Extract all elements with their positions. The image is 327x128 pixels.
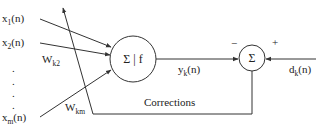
input-label-1: x1(n) xyxy=(2,12,24,27)
input-label-2: x2(n) xyxy=(2,36,24,51)
output-label: yk(n) xyxy=(178,63,200,78)
input-arrow-1 xyxy=(40,19,111,47)
ellipsis-dot: . xyxy=(12,99,15,111)
weight-label-k2: Wk2 xyxy=(42,53,60,68)
summing-junction-label: Σ xyxy=(249,51,256,65)
corrections-label: Corrections xyxy=(144,96,195,108)
desired-label: dk(n) xyxy=(289,63,311,78)
ellipsis-dot: . xyxy=(12,62,15,74)
weight-adjust-arrow xyxy=(63,8,93,114)
plus-sign: + xyxy=(272,36,278,48)
input-label-m: xm(n) xyxy=(2,111,27,126)
neuron-learning-diagram: x1(n) x2(n) xm(n) . . . . Wk2 Wkm Σ | f … xyxy=(0,0,327,128)
minus-sign: − xyxy=(231,37,237,49)
weight-label-km: Wkm xyxy=(65,101,85,116)
neuron-label: Σ | f xyxy=(123,52,142,66)
ellipsis-dot: . xyxy=(12,87,15,99)
ellipsis-dot: . xyxy=(12,75,15,87)
diagram-svg: x1(n) x2(n) xm(n) . . . . Wk2 Wkm Σ | f … xyxy=(0,0,327,128)
